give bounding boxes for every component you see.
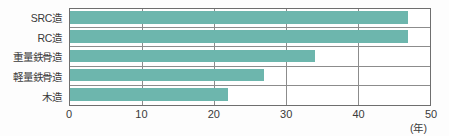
table-row bbox=[70, 47, 430, 66]
category-label-light-steel: 軽量鉄骨造 bbox=[0, 67, 66, 87]
xtick-10: 10 bbox=[135, 108, 147, 120]
xtick-50: 50 bbox=[425, 108, 437, 120]
horizontal-bar-chart: SRC造 RC造 重量鉄骨造 軽量鉄骨造 木造 bbox=[0, 0, 449, 136]
bar-heavy-steel bbox=[70, 50, 315, 63]
category-label-heavy-steel: 重量鉄骨造 bbox=[0, 47, 66, 67]
table-row bbox=[70, 86, 430, 105]
category-label-src: SRC造 bbox=[0, 8, 66, 28]
xtick-40: 40 bbox=[352, 108, 364, 120]
bar-rc bbox=[70, 30, 408, 43]
category-label-wood: 木造 bbox=[0, 86, 66, 106]
value-axis-labels: 0 10 20 30 40 50 bbox=[69, 108, 431, 122]
xtick-20: 20 bbox=[208, 108, 220, 120]
bar-light-steel bbox=[70, 69, 264, 82]
bar-rows bbox=[70, 9, 430, 105]
table-row bbox=[70, 28, 430, 47]
bar-wood bbox=[70, 88, 228, 101]
table-row bbox=[70, 67, 430, 86]
table-row bbox=[70, 9, 430, 28]
plot-area bbox=[69, 8, 431, 106]
axis-unit-label: (年) bbox=[410, 120, 427, 135]
category-label-rc: RC造 bbox=[0, 28, 66, 48]
bar-src bbox=[70, 11, 408, 24]
category-axis-labels: SRC造 RC造 重量鉄骨造 軽量鉄骨造 木造 bbox=[0, 8, 66, 106]
xtick-0: 0 bbox=[66, 108, 72, 120]
xtick-30: 30 bbox=[280, 108, 292, 120]
